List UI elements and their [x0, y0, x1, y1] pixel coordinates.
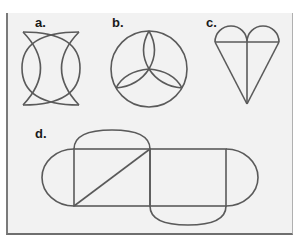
- figure-d-composite: [42, 130, 258, 225]
- figure-b-circle-petals: [111, 31, 187, 107]
- figures-canvas: [0, 0, 297, 244]
- figure-c-heart: [215, 26, 279, 104]
- figure-a-crescents: [22, 32, 80, 105]
